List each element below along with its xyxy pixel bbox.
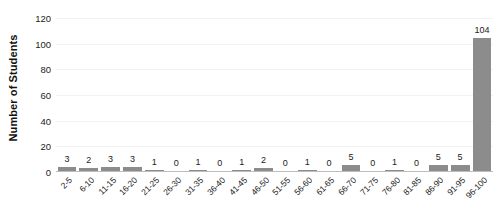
bar-slot: 3	[56, 18, 78, 171]
x-axis-tick-label: 6-10	[77, 175, 96, 194]
bar-slot: 1	[231, 18, 253, 171]
bar-value-label: 1	[384, 158, 406, 167]
y-axis-tick-60: 60	[40, 90, 51, 101]
x-axis-tick-label: 86-90	[423, 175, 445, 197]
y-axis-tick-0: 0	[46, 167, 51, 178]
bar-value-label: 0	[406, 159, 428, 168]
bar-slot: 0	[318, 18, 340, 171]
y-axis-tick-120: 120	[35, 13, 51, 24]
bar-slot: 1	[187, 18, 209, 171]
bar-slot: 5	[340, 18, 362, 171]
bar-value-label: 1	[143, 158, 165, 167]
x-axis-slot: 61-65	[318, 173, 340, 221]
x-axis-tick-label: 61-65	[314, 175, 336, 197]
y-axis-tick-labels: 020406080100120	[26, 12, 54, 172]
x-axis-slot: 31-35	[187, 173, 209, 221]
y-axis-tick-40: 40	[40, 115, 51, 126]
x-axis-tick-label: 71-75	[358, 175, 380, 197]
bar-value-label: 3	[100, 155, 122, 164]
x-axis-slot: 86-90	[427, 173, 449, 221]
bar-value-label: 104	[471, 26, 493, 35]
bar-slot: 2	[78, 18, 100, 171]
bar-slot: 2	[253, 18, 275, 171]
y-axis-tick-20: 20	[40, 141, 51, 152]
x-axis-tick-label: 41-45	[227, 175, 249, 197]
y-axis-tick-100: 100	[35, 38, 51, 49]
bar-value-label: 0	[318, 159, 340, 168]
bar-value-label: 3	[56, 155, 78, 164]
x-axis-tick-label: 66-70	[336, 175, 358, 197]
x-axis-slot: 21-25	[143, 173, 165, 221]
bar[interactable]	[473, 38, 492, 171]
x-axis-slot: 81-85	[406, 173, 428, 221]
x-axis-tick-label: 56-60	[292, 175, 314, 197]
x-axis-tick-label: 2-5	[58, 175, 74, 191]
x-axis-tick-label: 51-55	[270, 175, 292, 197]
bar-value-label: 0	[274, 159, 296, 168]
bar-slot: 1	[143, 18, 165, 171]
bar-value-label: 1	[296, 158, 318, 167]
bar-value-label: 1	[187, 158, 209, 167]
bar-slot: 3	[122, 18, 144, 171]
x-axis-tick-label: 76-80	[380, 175, 402, 197]
y-axis-title-label: Number of Students	[7, 35, 19, 142]
bar-value-label: 2	[253, 156, 275, 165]
bar-slot: 0	[406, 18, 428, 171]
bar-slot: 3	[100, 18, 122, 171]
x-axis-slot: 26-30	[165, 173, 187, 221]
bar-series: 3233101012010501055104	[56, 18, 493, 171]
bar-value-label: 2	[78, 156, 100, 165]
x-axis-tick-label: 11-15	[96, 175, 118, 197]
bar-value-label: 5	[449, 153, 471, 162]
x-axis-slot: 51-55	[274, 173, 296, 221]
x-axis-slot: 16-20	[122, 173, 144, 221]
x-axis-slot: 41-45	[231, 173, 253, 221]
bar-value-label: 3	[122, 155, 144, 164]
x-axis-tick-label: 31-35	[183, 175, 205, 197]
bar-slot: 104	[471, 18, 493, 171]
bar-value-label: 0	[165, 159, 187, 168]
x-axis-slot: 71-75	[362, 173, 384, 221]
bar-chart: Number of Students 020406080100120 32331…	[0, 0, 497, 221]
bar-slot: 1	[384, 18, 406, 171]
bar-value-label: 5	[427, 153, 449, 162]
x-axis-tick-label: 46-50	[248, 175, 270, 197]
x-axis-slot: 96-100	[471, 173, 493, 221]
x-axis-slot: 11-15	[100, 173, 122, 221]
x-axis-tick-label: 16-20	[117, 175, 139, 197]
bar-slot: 0	[274, 18, 296, 171]
x-axis-slot: 36-40	[209, 173, 231, 221]
x-axis-tick-labels: 2-56-1011-1516-2021-2526-3031-3536-4041-…	[56, 173, 493, 221]
x-axis-slot: 2-5	[56, 173, 78, 221]
bar-slot: 5	[427, 18, 449, 171]
x-axis-tick-label: 26-30	[161, 175, 183, 197]
bar-value-label: 0	[209, 159, 231, 168]
x-axis-slot: 46-50	[253, 173, 275, 221]
x-axis-tick-label: 81-85	[401, 175, 423, 197]
y-axis-tick-80: 80	[40, 64, 51, 75]
x-axis-slot: 66-70	[340, 173, 362, 221]
x-axis-slot: 76-80	[384, 173, 406, 221]
bar-value-label: 0	[362, 159, 384, 168]
x-axis-tick-label: 21-25	[139, 175, 161, 197]
bar-slot: 5	[449, 18, 471, 171]
x-axis-tick-label: 36-40	[205, 175, 227, 197]
plot-area: 3233101012010501055104	[56, 18, 493, 172]
bar-value-label: 1	[231, 158, 253, 167]
x-axis-slot: 56-60	[296, 173, 318, 221]
bar-slot: 1	[296, 18, 318, 171]
y-axis-title: Number of Students	[0, 0, 26, 176]
bar-slot: 0	[362, 18, 384, 171]
x-axis-line	[56, 171, 493, 172]
x-axis-slot: 6-10	[78, 173, 100, 221]
bar-slot: 0	[209, 18, 231, 171]
bar-value-label: 5	[340, 153, 362, 162]
bar-slot: 0	[165, 18, 187, 171]
